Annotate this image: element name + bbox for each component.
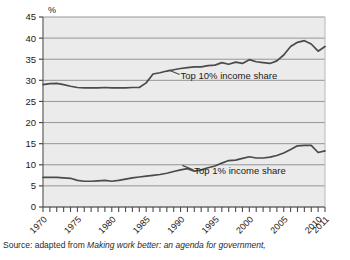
plot-background (43, 17, 325, 207)
y-tick-labels: 051015202530354045 (25, 11, 36, 212)
x-tick-label: 1995 (200, 214, 221, 235)
y-tick-label: 40 (25, 33, 36, 44)
y-tick-label: 10 (25, 159, 36, 170)
y-tick-label: 5 (31, 180, 36, 191)
x-tick-marks (43, 207, 325, 212)
x-tick-label: 1990 (165, 214, 186, 235)
x-tick-label: 1985 (131, 214, 152, 235)
figure: 051015202530354045 197019751980198519901… (0, 0, 350, 260)
y-axis-unit-label: % (48, 5, 56, 15)
annotation-label-top10: Top 10% income share (181, 70, 278, 81)
y-tick-label: 25 (25, 96, 36, 107)
x-tick-label: 1980 (96, 214, 117, 235)
y-tick-label: 15 (25, 138, 36, 149)
income-share-line-chart: 051015202530354045 197019751980198519901… (0, 0, 350, 235)
y-tick-label: 35 (25, 54, 36, 65)
x-tick-labels: 1970197519801985199019952000200520102011 (28, 214, 331, 235)
y-tick-label: 30 (25, 75, 36, 86)
y-tick-label: 20 (25, 117, 36, 128)
annotation-label-top1: Top 1% income share (194, 165, 285, 176)
source-caption: Source: adapted from Making work better:… (3, 240, 347, 251)
y-tick-label: 0 (31, 201, 36, 212)
source-prefix: Source: adapted from (3, 240, 87, 250)
x-tick-label: 1970 (28, 214, 49, 235)
x-tick-label: 1975 (62, 214, 83, 235)
y-tick-label: 45 (25, 11, 36, 22)
x-tick-label: 2000 (234, 214, 255, 235)
source-title: Making work better: an agenda for govern… (87, 240, 266, 250)
x-tick-label: 2005 (268, 214, 289, 235)
